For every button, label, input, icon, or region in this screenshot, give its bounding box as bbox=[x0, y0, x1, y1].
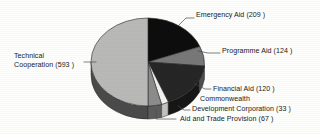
slice-label-financial-aid: Financial Aid (120 ) bbox=[213, 85, 275, 94]
leader-line-emergency-aid bbox=[178, 18, 194, 26]
slice-label-aid-and-trade-provision: Aid and Trade Provision (67 ) bbox=[180, 115, 273, 124]
slice-label-technical-cooperation: Technical Cooperation (593 ) bbox=[14, 52, 74, 69]
slice-label-technical-cooperation-line1: Technical bbox=[14, 52, 44, 60]
slice-label-programme-aid: Programme Aid (124 ) bbox=[222, 47, 292, 56]
slice-label-technical-cooperation-line2: Cooperation (593 ) bbox=[14, 61, 74, 70]
pie-chart-figure: Emergency Aid (209 ) Programme Aid (124 … bbox=[0, 0, 320, 134]
slice-label-commonwealth: Commonwealth bbox=[200, 95, 250, 104]
side-wall-aid-and-trade bbox=[148, 104, 162, 119]
slice-label-emergency-aid: Emergency Aid (209 ) bbox=[196, 11, 265, 20]
pie-top-face bbox=[91, 18, 205, 106]
slice-label-development-corporation: Development Corporation (33 ) bbox=[192, 105, 291, 114]
